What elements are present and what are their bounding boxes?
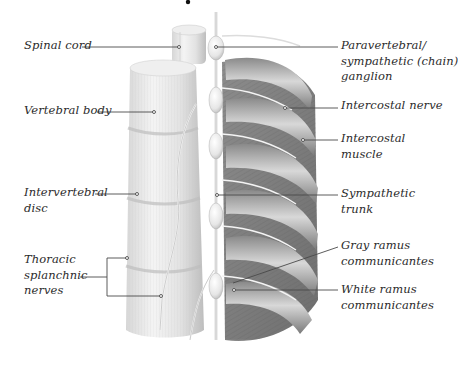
label-thoracic-splanchnic-nerves: Thoracic splanchnic nerves (24, 252, 88, 299)
label-paravertebral-ganglion: Paravertebral/ sympathetic (chain) gangl… (341, 38, 458, 85)
label-sympathetic-trunk: Sympathetic trunk (341, 186, 415, 217)
label-intercostal-muscle: Intercostal muscle (341, 131, 405, 162)
label-spinal-cord: Spinal cord (24, 38, 92, 54)
label-intercostal-nerve: Intercostal nerve (341, 98, 443, 114)
label-intervertebral-disc: Intervertebral disc (24, 185, 108, 216)
label-gray-ramus-communicantes: Gray ramus communicantes (341, 238, 434, 269)
top-marker (186, 0, 190, 4)
label-white-ramus-communicantes: White ramus communicantes (341, 282, 434, 313)
label-vertebral-body: Vertebral body (24, 103, 112, 119)
